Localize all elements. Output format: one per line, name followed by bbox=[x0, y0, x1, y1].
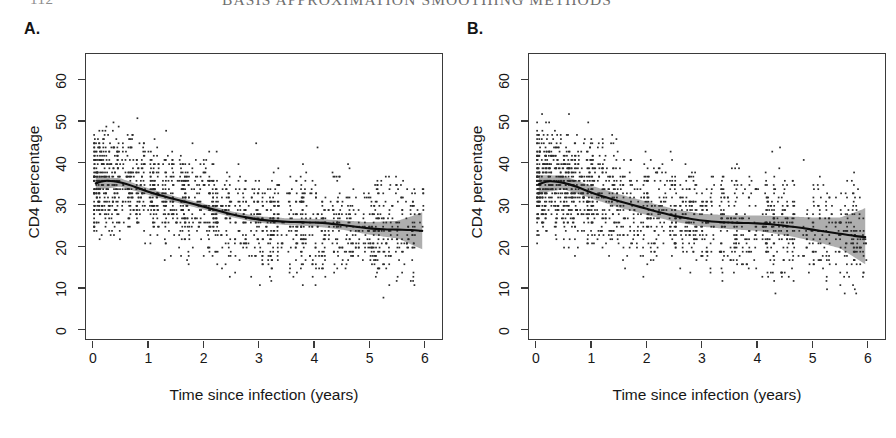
scatter-point bbox=[669, 188, 671, 190]
scatter-point bbox=[270, 188, 272, 190]
scatter-point bbox=[637, 230, 639, 232]
scatter-point bbox=[260, 222, 262, 224]
scatter-point bbox=[99, 142, 101, 144]
scatter-point bbox=[217, 201, 219, 203]
scatter-point bbox=[592, 159, 594, 161]
scatter-point bbox=[553, 205, 555, 207]
panel-b-plot-frame bbox=[528, 53, 886, 340]
scatter-point bbox=[183, 184, 185, 186]
scatter-point bbox=[96, 184, 98, 186]
scatter-point bbox=[337, 222, 339, 224]
scatter-point bbox=[853, 172, 855, 174]
scatter-point bbox=[819, 238, 821, 240]
panel-a-letter: A. bbox=[24, 20, 41, 38]
scatter-point bbox=[778, 234, 780, 236]
scatter-point bbox=[377, 218, 379, 220]
scatter-point bbox=[266, 226, 268, 228]
scatter-point bbox=[376, 188, 378, 190]
scatter-point bbox=[286, 234, 288, 236]
scatter-point bbox=[170, 255, 172, 257]
scatter-point bbox=[191, 218, 193, 220]
scatter-point bbox=[173, 213, 175, 215]
scatter-point bbox=[612, 184, 614, 186]
scatter-point bbox=[375, 259, 377, 261]
scatter-point bbox=[196, 184, 198, 186]
scatter-point bbox=[337, 197, 339, 199]
scatter-point bbox=[689, 201, 691, 203]
scatter-point bbox=[101, 234, 103, 236]
scatter-point bbox=[679, 268, 681, 270]
scatter-point bbox=[165, 226, 167, 228]
scatter-point bbox=[865, 238, 867, 240]
scatter-point bbox=[613, 155, 615, 157]
scatter-point bbox=[411, 205, 413, 207]
scatter-point bbox=[368, 243, 370, 245]
scatter-point bbox=[693, 238, 695, 240]
scatter-point bbox=[267, 188, 269, 190]
scatter-point bbox=[157, 176, 159, 178]
scatter-point bbox=[289, 263, 291, 265]
scatter-point bbox=[623, 209, 625, 211]
scatter-point bbox=[650, 247, 652, 249]
scatter-point bbox=[640, 213, 642, 215]
scatter-point bbox=[125, 172, 127, 174]
scatter-point bbox=[203, 213, 205, 215]
scatter-point bbox=[347, 243, 349, 245]
scatter-point bbox=[564, 226, 566, 228]
scatter-point bbox=[798, 255, 800, 257]
scatter-point bbox=[410, 280, 412, 282]
panel-b-y-tick-label: 50 bbox=[496, 109, 512, 135]
scatter-point bbox=[613, 222, 615, 224]
scatter-point bbox=[302, 213, 304, 215]
scatter-point bbox=[137, 167, 139, 169]
scatter-point bbox=[781, 213, 783, 215]
scatter-point bbox=[188, 176, 190, 178]
scatter-point bbox=[395, 176, 397, 178]
scatter-point bbox=[417, 209, 419, 211]
scatter-point bbox=[179, 230, 181, 232]
scatter-point bbox=[793, 218, 795, 220]
scatter-point bbox=[736, 188, 738, 190]
panel-b-x-tick bbox=[756, 341, 757, 348]
scatter-point bbox=[783, 247, 785, 249]
panel-a-x-axis: 0123456 bbox=[85, 341, 443, 381]
scatter-point bbox=[324, 259, 326, 261]
scatter-point bbox=[594, 167, 596, 169]
scatter-point bbox=[115, 201, 117, 203]
scatter-point bbox=[744, 238, 746, 240]
scatter-point bbox=[670, 205, 672, 207]
scatter-point bbox=[128, 172, 130, 174]
scatter-point bbox=[620, 226, 622, 228]
scatter-point bbox=[305, 243, 307, 245]
scatter-point bbox=[778, 238, 780, 240]
scatter-point bbox=[208, 205, 210, 207]
scatter-point bbox=[262, 251, 264, 253]
scatter-point bbox=[300, 238, 302, 240]
scatter-point bbox=[835, 222, 837, 224]
scatter-point bbox=[115, 188, 117, 190]
scatter-point bbox=[196, 201, 198, 203]
scatter-point bbox=[163, 213, 165, 215]
scatter-point bbox=[749, 230, 751, 232]
scatter-point bbox=[113, 192, 115, 194]
scatter-point bbox=[271, 268, 273, 270]
panel-b-x-tick-label: 6 bbox=[857, 350, 879, 366]
scatter-point bbox=[152, 197, 154, 199]
scatter-point bbox=[742, 247, 744, 249]
scatter-point bbox=[850, 222, 852, 224]
scatter-point bbox=[813, 222, 815, 224]
scatter-point bbox=[165, 218, 167, 220]
scatter-point bbox=[182, 184, 184, 186]
scatter-point bbox=[185, 222, 187, 224]
scatter-point bbox=[566, 155, 568, 157]
scatter-point bbox=[413, 243, 415, 245]
scatter-point bbox=[198, 192, 200, 194]
scatter-point bbox=[138, 197, 140, 199]
scatter-point bbox=[646, 263, 648, 265]
scatter-point bbox=[311, 192, 313, 194]
scatter-point bbox=[594, 234, 596, 236]
scatter-point bbox=[694, 226, 696, 228]
scatter-point bbox=[617, 234, 619, 236]
scatter-point bbox=[375, 247, 377, 249]
scatter-point bbox=[542, 172, 544, 174]
